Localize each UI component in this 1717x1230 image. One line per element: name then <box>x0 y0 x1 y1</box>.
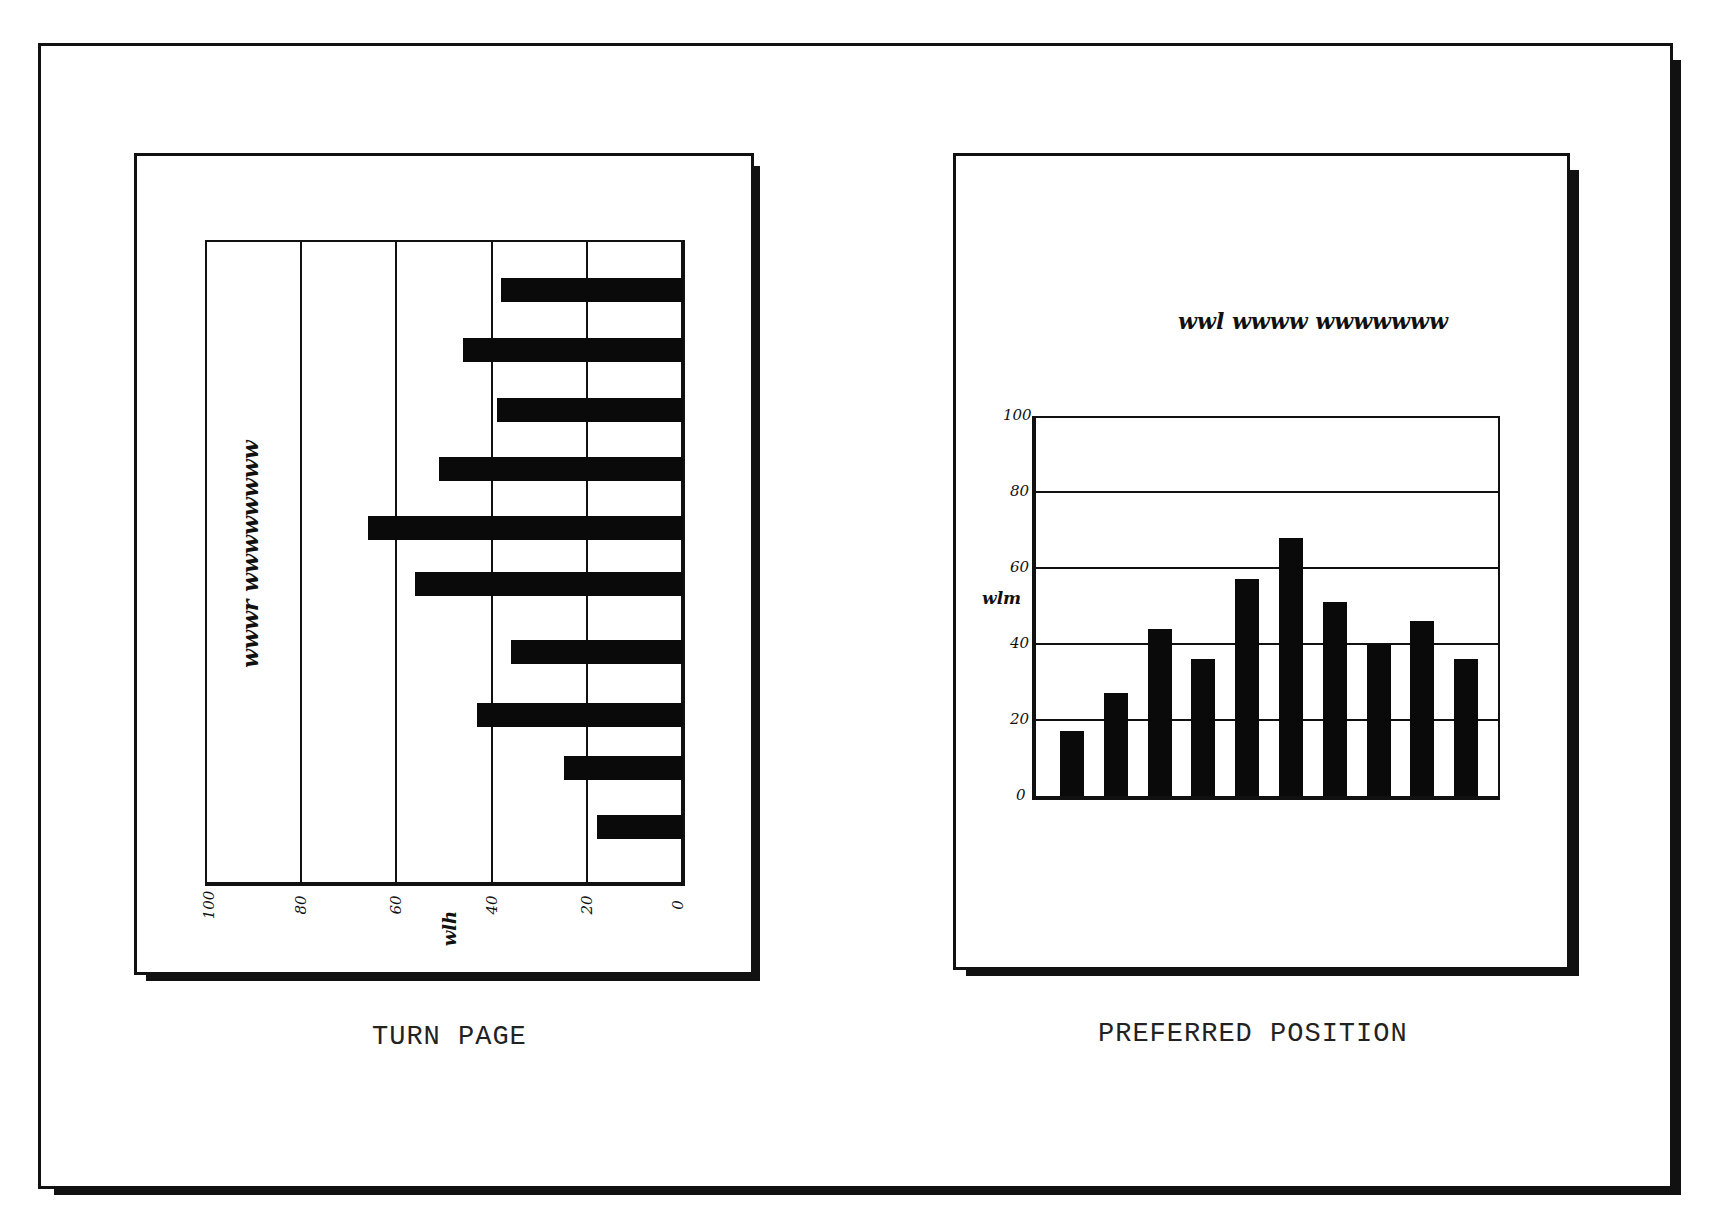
right-chart-bar <box>1410 621 1434 796</box>
left-chart-tick-label: 0 <box>669 900 687 910</box>
right-chart-axis-label: wlm <box>982 588 1021 608</box>
left-chart-bar <box>463 338 683 362</box>
left-chart-tick-label: 80 <box>291 895 309 914</box>
right-chart-tick-label: 80 <box>1010 482 1029 500</box>
left-chart-tick-label: 100 <box>200 891 218 920</box>
right-chart-bar <box>1454 659 1478 796</box>
left-chart-bar <box>501 278 683 302</box>
right-chart-gridline <box>1032 491 1498 493</box>
left-chart-gridline <box>491 240 493 884</box>
right-chart-bar <box>1060 731 1084 796</box>
left-panel-caption: TURN PAGE <box>372 1022 527 1052</box>
right-chart-bar <box>1104 693 1128 796</box>
right-chart <box>1032 416 1500 800</box>
left-chart-bar <box>439 457 683 481</box>
left-chart-bar <box>477 703 683 727</box>
right-chart-tick-label: 40 <box>1010 634 1029 652</box>
right-chart-bar <box>1235 579 1259 796</box>
left-chart-bar <box>511 640 683 664</box>
right-chart-bar <box>1279 538 1303 796</box>
left-chart-bar <box>597 815 683 839</box>
right-chart-bar <box>1191 659 1215 796</box>
right-chart-tick-label: 20 <box>1010 710 1029 728</box>
left-chart <box>205 240 685 886</box>
right-chart-gridline <box>1032 567 1498 569</box>
right-chart-tick-label: 0 <box>1016 786 1026 804</box>
left-chart-gridline <box>300 240 302 884</box>
right-chart-tick-label: 100 <box>1003 406 1032 424</box>
right-panel-caption: PREFERRED POSITION <box>1098 1019 1408 1049</box>
left-chart-bar <box>415 572 683 596</box>
left-chart-bar <box>368 516 683 540</box>
left-chart-plot-area <box>205 240 685 886</box>
right-chart-tick-label: 60 <box>1010 558 1029 576</box>
right-chart-bar <box>1148 629 1172 796</box>
left-chart-tick-label: 60 <box>387 895 405 914</box>
left-chart-gridline <box>586 240 588 884</box>
left-chart-bar <box>497 398 683 422</box>
left-chart-tick-label: 20 <box>578 895 596 914</box>
left-chart-title: wwwr wwwwwwww <box>237 448 263 668</box>
left-chart-bar <box>564 756 684 780</box>
right-chart-bar <box>1367 644 1391 796</box>
left-chart-gridline <box>395 240 397 884</box>
right-chart-title: wwl wwww wwwwwww <box>1178 308 1448 334</box>
left-chart-axis-label: wlh <box>439 911 460 946</box>
left-chart-tick-label: 40 <box>482 895 500 914</box>
right-chart-bar <box>1323 602 1347 796</box>
